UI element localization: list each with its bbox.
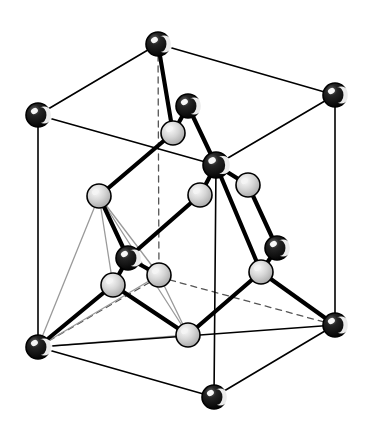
dark-sphere-body	[323, 83, 347, 107]
light-sphere-body	[87, 184, 111, 208]
dark-sphere-body	[203, 152, 229, 178]
light-sphere-body	[147, 263, 171, 287]
dark-sphere-body	[265, 236, 289, 260]
crystal-structure-canvas	[0, 0, 368, 424]
dark-sphere-body	[202, 385, 226, 409]
interior-light-atom-lowright[interactable]	[249, 260, 273, 284]
crystal-structure-figure	[0, 0, 368, 424]
dark-sphere-body	[323, 313, 347, 337]
light-sphere-body	[101, 273, 125, 297]
figure-background	[0, 0, 368, 424]
light-sphere-body	[188, 183, 212, 207]
interior-light-atom-upright[interactable]	[236, 173, 260, 197]
dark-sphere-body	[146, 32, 170, 56]
light-sphere-body	[176, 323, 200, 347]
interior-light-atom-center[interactable]	[188, 183, 212, 207]
light-sphere-body	[161, 121, 185, 145]
dark-sphere-body	[26, 103, 50, 127]
dark-sphere-body	[176, 94, 200, 118]
light-sphere-body	[249, 260, 273, 284]
interior-light-atom-left[interactable]	[87, 184, 111, 208]
interior-light-atom-back[interactable]	[147, 263, 171, 287]
interior-light-atom-top[interactable]	[161, 121, 185, 145]
interior-light-atom-lowleft[interactable]	[101, 273, 125, 297]
interior-light-atom-bottom[interactable]	[176, 323, 200, 347]
dark-sphere-body	[116, 246, 140, 270]
dark-sphere-body	[26, 335, 50, 359]
light-sphere-body	[236, 173, 260, 197]
